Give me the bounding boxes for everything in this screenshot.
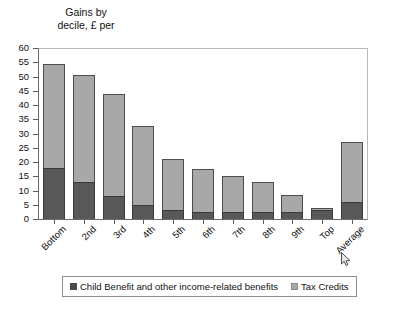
bar-segment-tax-credits [103,94,125,197]
bar-segment-child-benefit [252,212,274,219]
mouse-cursor-icon [341,252,352,267]
x-tick-label: 7th [230,224,246,240]
bar-segment-tax-credits [222,176,244,212]
x-tick-label: Top [318,224,336,242]
y-tick-label: 55 [18,58,29,68]
bar-segment-child-benefit [73,182,95,219]
bar-segment-child-benefit [311,210,333,219]
bar-segment-child-benefit [192,212,214,219]
y-tick-label: 15 [18,172,29,182]
y-tick-label: 35 [18,115,29,125]
bar-9th [281,195,303,219]
bar-segment-tax-credits [192,169,214,212]
bar-segment-tax-credits [281,195,303,212]
x-axis: Bottom2nd3rd4th5th6th7th8th9thTopAverage [39,224,379,268]
bar-7th [222,176,244,219]
y-tick-label: 20 [18,157,29,167]
bar-segment-child-benefit [341,202,363,219]
y-tick-label: 45 [18,86,29,96]
y-tick-label: 0 [24,214,29,224]
bar-segment-tax-credits [43,64,65,168]
x-tick-label: Bottom [40,224,68,252]
bar-segment-child-benefit [222,212,244,219]
bar-segment-child-benefit [162,210,184,219]
y-tick-label: 10 [18,186,29,196]
y-tick-label: 50 [18,72,29,82]
chart-container: Gains by decile, £ per 05101520253035404… [0,0,395,309]
legend-item: Child Benefit and other income-related b… [70,282,278,292]
x-tick-label: 3rd [111,224,128,241]
bar-3rd [103,94,125,219]
bar-segment-child-benefit [281,212,303,219]
bar-segment-tax-credits [341,142,363,202]
x-tick-label: 4th [141,224,157,240]
y-tick-label: 40 [18,100,29,110]
bar-average [341,142,363,219]
y-tick-label: 60 [18,43,29,53]
bar-top [311,208,333,219]
bar-6th [192,169,214,219]
bar-segment-tax-credits [73,75,95,182]
legend-swatch-icon [291,283,298,290]
x-tick-label: 5th [171,224,187,240]
bar-bottom [43,64,65,219]
y-axis: 051015202530354045505560 [0,48,34,220]
bar-segment-tax-credits [132,126,154,204]
legend-swatch-icon [70,283,77,290]
y-tick-label: 30 [18,129,29,139]
x-tick-label: 2nd [80,224,98,242]
bar-segment-tax-credits [162,159,184,210]
y-tick-label: 5 [24,200,29,210]
legend-label: Child Benefit and other income-related b… [80,282,278,292]
y-tick-label: 25 [18,143,29,153]
bar-segment-child-benefit [132,205,154,219]
bar-segment-tax-credits [252,182,274,212]
bar-5th [162,159,184,219]
chart-legend: Child Benefit and other income-related b… [62,276,357,297]
bar-segment-child-benefit [103,196,125,219]
x-tick-label: 8th [260,224,276,240]
bar-segment-child-benefit [43,168,65,219]
bar-2nd [73,75,95,219]
legend-item: Tax Credits [291,282,349,292]
bars-layer [39,48,367,219]
bar-8th [252,182,274,219]
x-tick-label: 9th [290,224,306,240]
x-tick-label: 6th [201,224,217,240]
bar-4th [132,126,154,219]
legend-label: Tax Credits [301,282,349,292]
chart-title: Gains by decile, £ per [26,6,146,32]
